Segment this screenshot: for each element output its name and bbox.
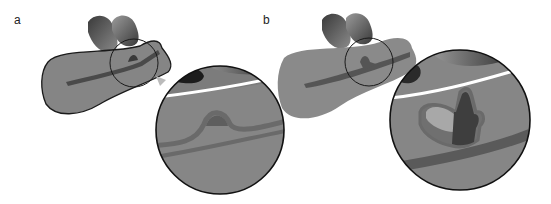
panel-b [278,13,530,190]
organ-body-a [42,41,171,114]
inset-circle-a [150,60,290,200]
pointer-arrow-a [156,76,166,86]
figure-canvas [0,0,551,204]
panel-a [42,16,290,200]
